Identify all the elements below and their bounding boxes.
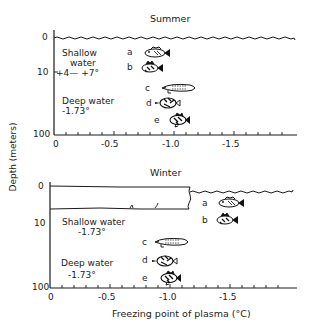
- winter-xtick-0.5: -0.5: [98, 292, 116, 302]
- winter-fish-e-icon: [161, 271, 181, 285]
- y-axis-label: Depth (meters): [8, 122, 18, 192]
- summer-fish-a-label: a: [127, 47, 133, 57]
- summer-fish-d-label: d: [146, 98, 152, 108]
- winter-fish-e-label: e: [142, 273, 148, 283]
- summer-ytick-10: 10: [37, 67, 48, 77]
- winter-fish-d-label: d: [142, 255, 148, 265]
- winter-fish-c-label: c: [142, 237, 147, 247]
- summer-deep-label: Deep water: [62, 96, 114, 106]
- winter-xtick-1.5: -1.5: [219, 292, 237, 302]
- summer-fish-a-icon: [145, 47, 170, 57]
- winter-ytick-10: 10: [34, 218, 45, 228]
- summer-shallow-label-2: water: [70, 58, 96, 68]
- summer-xtick-1.0: -1.0: [162, 139, 180, 149]
- summer-fish-c-icon: [162, 84, 195, 93]
- winter-fish-a-label: a: [202, 198, 208, 208]
- summer-shallow-label-1: Shallow: [62, 48, 97, 58]
- summer-ytick-100: 100: [33, 129, 50, 139]
- x-axis-label: Freezing point of plasma (°C): [112, 309, 251, 319]
- summer-fish-c-label: c: [145, 83, 150, 93]
- winter-fish-b-label: b: [202, 215, 208, 225]
- winter-fish-b-icon: [217, 213, 238, 224]
- summer-xtick-0.5: -0.5: [101, 139, 119, 149]
- summer-fish-e-icon: [170, 113, 190, 127]
- winter-fish-a-icon: [219, 197, 244, 207]
- winter-ytick-0: 0: [38, 181, 44, 191]
- winter-ice-layer: [50, 186, 191, 209]
- winter-fish-d-icon: [152, 256, 177, 266]
- winter-shallow-temp: -1.73°: [78, 227, 106, 237]
- winter-deep-temp: -1.73°: [68, 270, 96, 280]
- winter-deep-label: Deep water: [61, 258, 113, 268]
- summer-fish-b-label: b: [127, 62, 133, 72]
- summer-water-surface: [54, 37, 295, 40]
- winter-fish-c-icon: [155, 238, 188, 247]
- summer-shallow-temp: +4— +7°: [56, 68, 99, 78]
- summer-title: Summer: [150, 14, 190, 24]
- figure-graphics: [0, 0, 311, 325]
- summer-ytick-0: 0: [42, 32, 48, 42]
- winter-title: Winter: [150, 168, 181, 178]
- summer-xtick-0: 0: [53, 139, 59, 149]
- summer-fish-d-icon: [155, 98, 180, 108]
- summer-deep-temp: -1.73°: [62, 106, 90, 116]
- winter-ytick-100: 100: [32, 282, 49, 292]
- summer-fish-b-icon: [142, 61, 163, 72]
- winter-xtick-0: 0: [48, 292, 54, 302]
- winter-shallow-label: Shallow water: [62, 217, 125, 227]
- summer-xtick-1.5: -1.5: [222, 139, 240, 149]
- summer-fish-e-label: e: [154, 115, 160, 125]
- winter-water-surface: [190, 190, 293, 193]
- winter-xtick-1.0: -1.0: [159, 292, 177, 302]
